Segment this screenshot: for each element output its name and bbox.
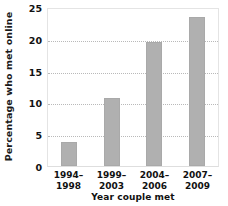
y-axis-tick-labels: 0510152025	[18, 0, 45, 172]
x-tick-label-line2: 2006	[135, 181, 175, 192]
y-tick-label: 25	[29, 3, 42, 14]
bars-group	[48, 9, 218, 166]
y-tick-label: 15	[29, 66, 42, 77]
bar[interactable]	[61, 142, 77, 166]
x-tick-label: 1994–1998	[49, 170, 89, 192]
x-tick-label: 1999–2003	[92, 170, 132, 192]
x-tick-label-line1: 1994–	[54, 170, 84, 180]
y-axis-title-text: Percentage who met online	[4, 11, 15, 161]
x-tick-label-line2: 2003	[92, 181, 132, 192]
x-tick-label-line2: 2009	[178, 181, 218, 192]
y-axis-title: Percentage who met online	[0, 0, 18, 172]
x-axis-title: Year couple met	[47, 192, 219, 202]
y-tick-label: 0	[35, 162, 42, 173]
x-tick-label-line1: 2007–	[183, 170, 213, 180]
y-tick-label: 5	[35, 130, 42, 141]
plot-area	[47, 8, 219, 167]
bar[interactable]	[189, 17, 205, 166]
x-axis-tick-labels: 1994–19981999–20032004–20062007–2009	[47, 170, 219, 194]
bar-chart: Percentage who met online 0510152025 199…	[0, 0, 228, 206]
y-tick-label: 10	[29, 98, 42, 109]
x-tick-label: 2004–2006	[135, 170, 175, 192]
x-tick-label-line1: 1999–	[97, 170, 127, 180]
bar[interactable]	[104, 98, 120, 166]
x-tick-label: 2007–2009	[178, 170, 218, 192]
y-tick-label: 20	[29, 34, 42, 45]
x-tick-label-line2: 1998	[49, 181, 89, 192]
x-tick-label-line1: 2004–	[140, 170, 170, 180]
bar[interactable]	[146, 42, 162, 166]
